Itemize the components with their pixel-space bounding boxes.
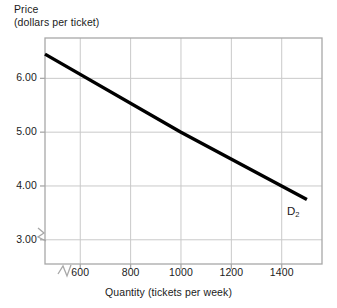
x-tick-label: 600	[60, 266, 100, 278]
demand-curve-line	[45, 54, 307, 199]
x-axis-title: Quantity (tickets per week)	[0, 286, 337, 298]
y-tick-label: 6.00	[3, 71, 37, 83]
demand-curve-figure: Price (dollars per ticket) 3.004.005.006…	[0, 0, 337, 308]
plot-canvas	[0, 0, 337, 308]
y-tick-label: 4.00	[3, 179, 37, 191]
y-tick-label: 5.00	[3, 125, 37, 137]
horizontal-gridlines	[45, 78, 322, 239]
x-tick-label: 800	[111, 266, 151, 278]
y-tick-label: 3.00	[3, 233, 37, 245]
vertical-gridlines	[80, 38, 281, 264]
axis-tick-marks	[40, 78, 282, 269]
series-label-d2: D2	[287, 205, 299, 217]
plot-frame	[45, 38, 322, 264]
x-tick-label: 1200	[211, 266, 251, 278]
x-tick-label: 1000	[161, 266, 201, 278]
series-label-base: D	[287, 205, 295, 217]
series-label-subscript: 2	[295, 210, 299, 219]
x-tick-label: 1400	[262, 266, 302, 278]
